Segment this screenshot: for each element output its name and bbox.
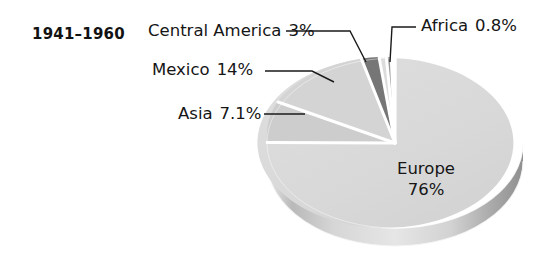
pie-label-europe-percent: 76% xyxy=(378,179,474,200)
pie-label-asia-name: Asia xyxy=(178,104,213,123)
pie-label-mexico: Mexico14% xyxy=(152,60,253,79)
pie-label-africa-name: Africa xyxy=(421,16,468,35)
pie-label-europe: Europe 76% xyxy=(378,158,474,200)
pie-label-asia-percent: 7.1% xyxy=(220,104,262,123)
pie-chart-figure: 1941–1960 xyxy=(0,0,555,256)
pie-label-mexico-name: Mexico xyxy=(152,60,210,79)
pie-label-central-america: Central America3% xyxy=(148,21,315,40)
pie-label-asia: Asia7.1% xyxy=(178,104,262,123)
pie-label-central-america-name: Central America xyxy=(148,21,281,40)
pie-label-africa-percent: 0.8% xyxy=(475,16,517,35)
pie-slices xyxy=(257,57,523,228)
pie-label-mexico-percent: 14% xyxy=(217,60,254,79)
pie-label-central-america-percent: 3% xyxy=(288,21,314,40)
pie-label-europe-name: Europe xyxy=(378,158,474,179)
leader-line-africa xyxy=(390,27,416,62)
pie-label-africa: Africa0.8% xyxy=(421,16,517,35)
